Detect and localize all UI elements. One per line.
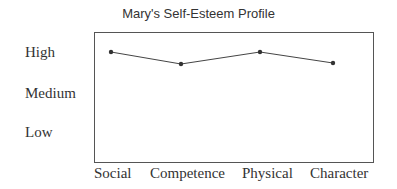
x-tick-physical: Physical [242, 165, 293, 182]
data-point-character [331, 61, 335, 65]
data-point-social [109, 50, 113, 54]
x-tick-character: Character [310, 165, 368, 182]
data-point-physical [258, 50, 262, 54]
x-tick-social: Social [94, 165, 132, 182]
plot-area [0, 0, 397, 189]
plot-frame [95, 33, 374, 163]
series-line [111, 52, 333, 64]
x-tick-competence: Competence [150, 165, 225, 182]
data-point-competence [179, 62, 183, 66]
